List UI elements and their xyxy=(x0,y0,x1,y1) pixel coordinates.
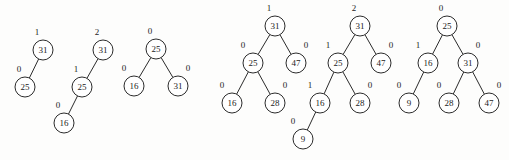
node-key-label: 31 xyxy=(174,81,183,91)
tree-edge xyxy=(139,58,151,78)
node-key-label: 47 xyxy=(292,58,302,68)
tree-node-25: 250 xyxy=(146,26,166,59)
tree-node-25: 250 xyxy=(15,64,35,97)
node-key-label: 28 xyxy=(271,98,281,108)
tree-1-nodes: 311250 xyxy=(15,27,53,97)
tree-node-28: 280 xyxy=(265,80,288,113)
node-key-label: 25 xyxy=(21,82,31,92)
tree-5-nodes: 31225147016128090 xyxy=(291,3,394,149)
node-key-label: 16 xyxy=(316,98,326,108)
node-balance-factor-label: 1 xyxy=(35,27,40,37)
node-balance-factor-label: 1 xyxy=(326,40,331,50)
tree-node-16: 161 xyxy=(308,80,330,113)
node-key-label: 16 xyxy=(130,81,140,91)
tree-edge xyxy=(324,72,334,94)
tree-3-nodes: 250160310 xyxy=(122,26,191,96)
tree-edge xyxy=(258,35,270,55)
node-balance-factor-label: 0 xyxy=(148,26,153,36)
tree-node-25: 251 xyxy=(326,40,348,73)
node-key-label: 31 xyxy=(39,45,48,55)
tree-node-16: 160 xyxy=(122,63,144,96)
node-balance-factor-label: 0 xyxy=(437,80,442,90)
tree-node-9: 90 xyxy=(291,116,313,149)
node-key-label: 25 xyxy=(152,44,162,54)
node-key-label: 31 xyxy=(271,21,280,31)
tree-edge xyxy=(68,96,77,114)
node-balance-factor-label: 0 xyxy=(397,80,402,90)
node-key-label: 25 xyxy=(249,58,259,68)
node-balance-factor-label: 0 xyxy=(241,40,246,50)
node-balance-factor-label: 1 xyxy=(416,40,421,50)
node-balance-factor-label: 0 xyxy=(291,116,296,126)
tree-edge xyxy=(280,35,291,55)
tree-6-nodes: 25016131090280470 xyxy=(397,3,502,113)
node-balance-factor-label: 0 xyxy=(122,63,127,73)
node-key-label: 28 xyxy=(356,98,366,108)
tree-3-edges xyxy=(139,58,173,78)
node-key-label: 31 xyxy=(356,21,365,31)
node-key-label: 25 xyxy=(334,58,344,68)
tree-node-31: 310 xyxy=(458,40,481,73)
node-balance-factor-label: 0 xyxy=(186,63,191,73)
tree-node-16: 161 xyxy=(416,40,438,73)
node-key-label: 16 xyxy=(424,58,434,68)
node-balance-factor-label: 0 xyxy=(283,80,288,90)
node-key-label: 31 xyxy=(99,45,108,55)
tree-node-25: 250 xyxy=(437,3,457,36)
node-key-label: 28 xyxy=(445,98,455,108)
tree-1-edges xyxy=(29,59,38,78)
node-balance-factor-label: 2 xyxy=(352,3,357,13)
tree-node-31: 312 xyxy=(350,3,370,36)
node-balance-factor-label: 1 xyxy=(74,64,79,74)
tree-edge xyxy=(161,58,173,78)
node-key-label: 47 xyxy=(485,98,495,108)
tree-node-31: 310 xyxy=(168,63,191,96)
tree-node-28: 280 xyxy=(437,80,459,113)
node-balance-factor-label: 0 xyxy=(389,40,394,50)
node-balance-factor-label: 1 xyxy=(267,3,272,13)
tree-edge xyxy=(258,72,270,94)
node-key-label: 16 xyxy=(60,118,70,128)
node-balance-factor-label: 1 xyxy=(308,80,313,90)
tree-4-nodes: 311250470160280 xyxy=(220,3,309,113)
tree-edge xyxy=(413,72,423,94)
node-key-label: 31 xyxy=(464,58,473,68)
tree-node-9: 90 xyxy=(397,80,419,113)
tree-edge xyxy=(453,72,463,94)
tree-edge xyxy=(473,72,485,94)
tree-node-47: 470 xyxy=(371,40,394,73)
node-balance-factor-label: 0 xyxy=(439,3,444,13)
tree-node-16: 160 xyxy=(54,100,74,133)
node-key-label: 25 xyxy=(443,21,453,31)
figure-canvas: 3112503122511602501603103112504701602803… xyxy=(0,0,509,160)
node-balance-factor-label: 0 xyxy=(476,40,481,50)
tree-edge xyxy=(452,35,463,55)
tree-node-47: 470 xyxy=(286,40,309,73)
node-balance-factor-label: 2 xyxy=(95,27,100,37)
node-balance-factor-label: 0 xyxy=(17,64,22,74)
tree-5-edges xyxy=(307,35,376,130)
avl-tree-figure: 3112503122511602501603103112504701602803… xyxy=(0,0,509,160)
tree-edge xyxy=(237,72,249,94)
node-key-label: 16 xyxy=(228,98,238,108)
tree-node-31: 311 xyxy=(33,27,53,60)
node-balance-factor-label: 0 xyxy=(497,80,502,90)
tree-edge xyxy=(87,59,98,79)
node-key-label: 9 xyxy=(407,98,412,108)
node-balance-factor-label: 0 xyxy=(368,80,373,90)
tree-edge xyxy=(365,35,376,55)
tree-edge xyxy=(29,59,38,78)
node-balance-factor-label: 0 xyxy=(220,80,225,90)
tree-node-25: 250 xyxy=(241,40,263,73)
tree-node-25: 251 xyxy=(72,64,92,97)
node-balance-factor-label: 0 xyxy=(56,100,61,110)
tree-node-47: 470 xyxy=(479,80,502,113)
node-key-label: 9 xyxy=(301,134,306,144)
tree-2-nodes: 312251160 xyxy=(54,27,113,133)
node-balance-factor-label: 0 xyxy=(304,40,309,50)
node-key-label: 25 xyxy=(78,82,88,92)
tree-node-31: 312 xyxy=(93,27,113,60)
tree-edge xyxy=(343,72,355,94)
tree-node-31: 311 xyxy=(265,3,285,36)
node-key-label: 47 xyxy=(377,58,387,68)
